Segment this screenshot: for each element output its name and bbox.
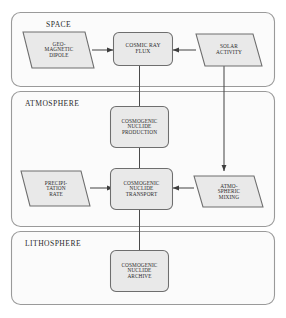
section-label-atmosphere: ATMOSPHERE: [25, 99, 79, 108]
node-cosmic-ray-flux[interactable]: [114, 33, 173, 66]
node-cosmogenic-nuclide-transport[interactable]: [111, 169, 173, 210]
node-precipitation-rate[interactable]: [21, 171, 90, 206]
node-atmospheric-mixing[interactable]: [194, 176, 263, 207]
diagram-canvas: [0, 0, 286, 318]
section-label-lithosphere: LITHOSPHERE: [25, 239, 81, 248]
section-label-space: SPACE: [46, 20, 71, 29]
node-solar-activity[interactable]: [196, 34, 262, 66]
node-cosmogenic-nuclide-production[interactable]: [111, 107, 169, 148]
cosmogenic-nuclide-diagram: SPACE ATMOSPHERE LITHOSPHERE GEO- MAGNET…: [0, 0, 286, 318]
node-geomagnetic-dipole[interactable]: [23, 32, 94, 68]
node-cosmogenic-nuclide-archive[interactable]: [111, 251, 169, 292]
